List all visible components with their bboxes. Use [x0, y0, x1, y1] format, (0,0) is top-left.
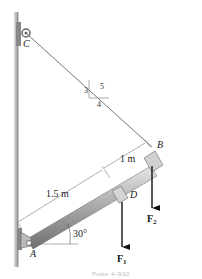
dimension-db: 1 m — [120, 153, 136, 164]
rod-ab — [27, 166, 157, 249]
figure-caption: Probs. 4–9/10 — [92, 271, 130, 277]
point-d-label: D — [129, 189, 138, 200]
diagram-canvas: 3 4 5 1.5 m 1 m 30° F1 F2 A B C D — [0, 0, 202, 279]
force-f1-label: F1 — [117, 253, 127, 266]
point-a-label: A — [29, 248, 37, 259]
slope-hyp: 5 — [100, 82, 104, 91]
angle-label: 30° — [73, 228, 87, 239]
point-c-label: C — [23, 38, 30, 49]
slope-run: 4 — [97, 100, 101, 109]
slope-rise: 3 — [84, 86, 88, 95]
dimension-ad: 1.5 m — [46, 188, 69, 199]
point-b-label: B — [157, 139, 163, 150]
support-a — [17, 228, 32, 250]
force-f2-label: F2 — [147, 213, 157, 226]
cable-cb — [27, 34, 152, 147]
slope-triangle — [89, 80, 109, 98]
